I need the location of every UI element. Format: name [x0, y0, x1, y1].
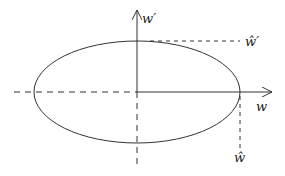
horizontal-axis-label: w	[256, 99, 267, 114]
horizontal-intercept-label: ŵ	[234, 150, 245, 165]
vertical-intercept-label: ŵ′	[245, 34, 259, 49]
vertical-axis-label: w′	[142, 11, 156, 26]
ellipse-diagram: w′ w ŵ′ ŵ	[0, 0, 285, 176]
